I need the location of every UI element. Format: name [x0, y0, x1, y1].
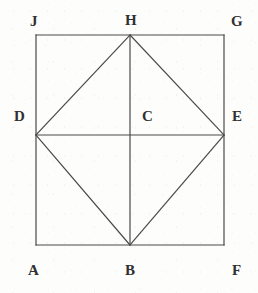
segment-rhombus-side-EB — [130, 135, 224, 245]
vertex-label-g: G — [231, 14, 243, 29]
segment-rhombus-side-DH — [36, 35, 130, 135]
vertex-label-b: B — [125, 263, 135, 278]
segment-rhombus-side-BD — [36, 135, 130, 245]
segment-group — [36, 35, 224, 245]
vertex-label-e: E — [232, 109, 242, 124]
geometry-figure — [0, 0, 258, 293]
vertex-label-a: A — [28, 263, 39, 278]
vertex-label-d: D — [14, 109, 25, 124]
vertex-label-c: C — [142, 109, 153, 124]
vertex-label-j: J — [30, 14, 38, 29]
vertex-label-f: F — [232, 263, 241, 278]
diagram-canvas: JHGDCEABF — [0, 0, 258, 293]
vertex-label-h: H — [125, 13, 137, 28]
